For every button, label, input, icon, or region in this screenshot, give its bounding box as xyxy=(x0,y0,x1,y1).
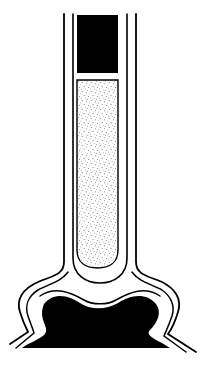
diagram-stage: Tube in sheath with base reservoir (line… xyxy=(0,0,206,374)
stippled-tube xyxy=(77,80,118,268)
solid-plug xyxy=(77,15,118,73)
diagram-canvas xyxy=(0,0,206,374)
